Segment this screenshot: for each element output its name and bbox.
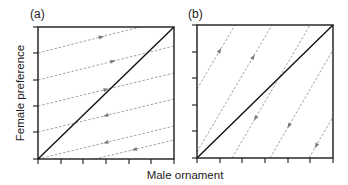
trajectory-line [38, 27, 140, 53]
y-axis-label: Female preference [14, 45, 26, 142]
trajectory-line [197, 25, 235, 89]
x-axis-label: Male ornament [147, 169, 225, 181]
trajectory-line [197, 25, 272, 152]
arrowhead-icon [250, 53, 256, 60]
arrowhead-icon [217, 47, 223, 54]
arrowhead-icon [252, 115, 258, 122]
trajectory-line [270, 50, 333, 158]
figure-canvas: (a) (b) Female preference Male ornament [0, 0, 348, 185]
panel-a-label: (a) [30, 7, 45, 21]
panel-b-label: (b) [188, 7, 203, 21]
arrowhead-icon [103, 113, 109, 118]
arrowhead-icon [286, 122, 292, 129]
trajectory-line [38, 46, 174, 80]
trajectory-line [232, 25, 310, 158]
arrowhead-icon [103, 140, 109, 145]
arrowhead-icon [110, 59, 116, 64]
panel-b: (b) [188, 7, 333, 163]
arrowhead-icon [131, 147, 137, 152]
arrowhead-icon [98, 34, 104, 39]
trajectory-line [309, 117, 333, 158]
panel-b-equilibrium-line [197, 25, 333, 158]
arrowhead-icon [313, 143, 319, 150]
panel-a-equilibrium-line [38, 27, 174, 159]
panel-a: (a) [30, 7, 174, 164]
